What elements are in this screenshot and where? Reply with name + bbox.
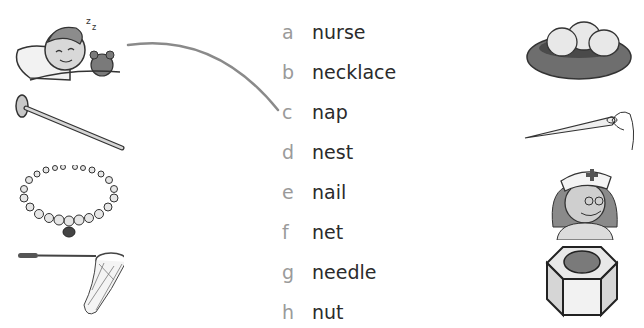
- svg-text:z: z: [86, 16, 91, 26]
- word-text: needle: [312, 261, 376, 283]
- word-text: net: [312, 221, 343, 243]
- word-letter: h: [282, 301, 312, 323]
- word-list: a nurse b necklace c nap d nest e nail f…: [282, 12, 396, 328]
- word-letter: a: [282, 21, 312, 43]
- word-item-a[interactable]: a nurse: [282, 12, 396, 52]
- word-letter: g: [282, 261, 312, 283]
- word-item-c[interactable]: c nap: [282, 92, 396, 132]
- word-letter: c: [282, 101, 312, 123]
- net-picture[interactable]: [14, 250, 124, 320]
- sleeping-child-picture[interactable]: z z: [10, 10, 125, 82]
- word-text: nap: [312, 101, 348, 123]
- word-item-e[interactable]: e nail: [282, 172, 396, 212]
- word-letter: d: [282, 141, 312, 163]
- word-letter: e: [282, 181, 312, 203]
- word-item-b[interactable]: b necklace: [282, 52, 396, 92]
- word-item-g[interactable]: g needle: [282, 252, 396, 292]
- nest-picture[interactable]: [522, 12, 637, 82]
- word-text: necklace: [312, 61, 396, 83]
- nut-picture[interactable]: [543, 245, 623, 320]
- svg-text:z: z: [92, 23, 96, 32]
- word-letter: b: [282, 61, 312, 83]
- word-item-f[interactable]: f net: [282, 212, 396, 252]
- word-item-h[interactable]: h nut: [282, 292, 396, 328]
- necklace-picture[interactable]: [14, 165, 124, 240]
- word-text: nest: [312, 141, 353, 163]
- needle-picture[interactable]: [520, 100, 640, 160]
- word-item-d[interactable]: d nest: [282, 132, 396, 172]
- word-text: nail: [312, 181, 346, 203]
- word-letter: f: [282, 221, 312, 243]
- nail-picture[interactable]: [12, 92, 127, 152]
- nurse-picture[interactable]: [545, 165, 625, 240]
- word-text: nut: [312, 301, 344, 323]
- word-text: nurse: [312, 21, 365, 43]
